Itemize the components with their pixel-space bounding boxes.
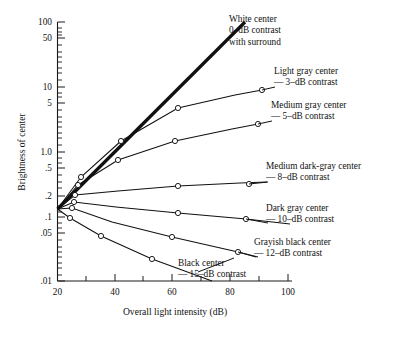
x-tick-label: 40 — [110, 287, 120, 297]
series-annotation-minus8db: Medium dark-gray center — 8–dB contrast — [266, 161, 361, 184]
data-point-marker — [118, 138, 123, 143]
series-minus5db-medium-gray — [58, 121, 261, 209]
annotation-line: — 10–dB contrast — [266, 214, 334, 225]
x-tick-label: 60 — [167, 287, 177, 297]
annotation-line: Medium gray center — [271, 100, 346, 111]
y-tick-label: 5 — [47, 98, 52, 108]
x-tick-labels: 20 40 60 80 100 — [53, 287, 295, 297]
y-tick-label: 10 — [43, 82, 53, 92]
x-tick-label: 100 — [281, 287, 295, 297]
series-0db-white-center — [58, 22, 246, 209]
data-point-marker — [67, 215, 72, 220]
series-annotation-minus10db: Dark gray center — 10–dB contrast — [266, 203, 334, 226]
series-annotation-minus15db: Black center — 15–dB contrast — [178, 258, 246, 281]
series-annotation-0db: White center 0–dB contrast with surround — [229, 14, 281, 48]
annotation-line: — 3–dB contrast — [274, 77, 338, 88]
y-tick-label: 100 — [38, 17, 52, 27]
annotation-line: Dark gray center — [266, 203, 334, 214]
annotation-line: — 8–dB contrast — [266, 172, 361, 183]
annotation-line: 0–dB contrast — [229, 25, 281, 36]
y-axis-major-ticks — [58, 22, 66, 281]
x-axis-title: Overall light intensity (dB) — [123, 306, 227, 318]
series-line — [58, 124, 259, 209]
annotation-line: Grayish black center — [254, 237, 331, 248]
data-point-marker — [71, 199, 76, 204]
y-tick-label: .5 — [45, 163, 52, 173]
annotation-line: Light gray center — [274, 66, 338, 77]
y-tick-label: .05 — [40, 228, 52, 238]
data-point-marker — [169, 234, 174, 239]
data-point-marker — [115, 157, 120, 162]
y-axis-title: Brightness of center — [16, 113, 27, 191]
data-point-marker — [172, 138, 177, 143]
series-line — [58, 208, 259, 257]
annotation-line: Black center — [178, 258, 246, 269]
data-point-marker — [149, 256, 154, 261]
brightness-contrast-chart: 100 50 10 5 1.0 .5 .2 .1 .05 .01 20 40 6… — [0, 0, 398, 343]
data-point-marker — [175, 183, 180, 188]
data-point-marker — [175, 105, 180, 110]
y-tick-labels: 100 50 10 5 1.0 .5 .2 .1 .05 .01 — [38, 17, 52, 286]
series-annotation-minus12db: Grayish black center — 12–dB contrast — [254, 237, 331, 260]
annotation-line: — 15–dB contrast — [178, 269, 246, 280]
data-point-marker — [78, 174, 83, 179]
series-line — [58, 182, 268, 209]
x-axis-ticks — [58, 274, 289, 281]
y-tick-label: 50 — [43, 33, 53, 43]
y-tick-label: 1.0 — [40, 147, 52, 157]
y-tick-label: .01 — [40, 276, 52, 286]
data-point-marker — [72, 192, 77, 197]
series-line — [58, 22, 246, 209]
y-tick-label: .1 — [45, 212, 52, 222]
annotation-line: Medium dark-gray center — [266, 161, 361, 172]
data-point-marker — [98, 233, 103, 238]
annotation-line: White center — [229, 14, 281, 25]
y-tick-label: .2 — [45, 191, 52, 201]
data-point-marker — [175, 210, 180, 215]
x-tick-label: 80 — [225, 287, 235, 297]
series-minus12db-grayish-black — [58, 205, 259, 257]
series-minus8db-medium-dark-gray — [58, 181, 268, 209]
data-point-marker — [75, 182, 80, 187]
annotation-line: — 12–dB contrast — [254, 248, 331, 259]
series-annotation-minus5db: Medium gray center — 5–dB contrast — [271, 100, 346, 123]
annotation-line: with surround — [229, 37, 281, 48]
annotation-line: — 5–dB contrast — [271, 111, 346, 122]
data-point-marker — [69, 205, 74, 210]
series-annotation-minus3db: Light gray center — 3–dB contrast — [274, 66, 338, 89]
x-tick-label: 20 — [53, 287, 63, 297]
